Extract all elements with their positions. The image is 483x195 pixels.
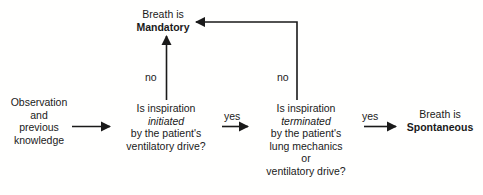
node-observation-line-4: knowledge <box>2 134 76 147</box>
edge-label-no-2: no <box>277 71 289 83</box>
node-decision2-line-2: terminated <box>250 115 362 128</box>
node-observation-line-2: and <box>2 109 76 122</box>
edge-label-yes-1: yes <box>224 110 240 122</box>
node-spontaneous-line-2: Spontaneous <box>400 121 480 134</box>
node-decision-inspiration-terminated: Is inspiration terminated by the patient… <box>250 102 362 178</box>
node-observation-line-3: previous <box>2 121 76 134</box>
node-observation-line-1: Observation <box>2 96 76 109</box>
node-decision1-line-4: ventilatory drive? <box>112 140 220 153</box>
flowchart-diagram: Observation and previous knowledge Is in… <box>0 0 483 195</box>
node-spontaneous-line-1: Breath is <box>400 108 480 121</box>
edge-label-no-1: no <box>145 71 157 83</box>
node-decision-inspiration-initiated: Is inspiration initiated by the patient'… <box>112 102 220 152</box>
node-decision2-line-3: by the patient's <box>250 127 362 140</box>
node-decision1-line-3: by the patient's <box>112 127 220 140</box>
node-decision2-line-5: or <box>250 152 362 165</box>
node-mandatory-line-2: Mandatory <box>126 21 200 34</box>
node-mandatory-line-1: Breath is <box>126 8 200 21</box>
node-decision2-line-6: ventilatory drive? <box>250 165 362 178</box>
node-breath-is-mandatory: Breath is Mandatory <box>126 8 200 33</box>
edge-label-yes-2: yes <box>362 110 378 122</box>
edge-decision2-no-to-mandatory <box>196 22 297 100</box>
node-decision2-line-4: lung mechanics <box>250 140 362 153</box>
node-decision1-line-2: initiated <box>112 115 220 128</box>
node-breath-is-spontaneous: Breath is Spontaneous <box>400 108 480 133</box>
node-decision2-line-1: Is inspiration <box>250 102 362 115</box>
node-decision1-line-1: Is inspiration <box>112 102 220 115</box>
node-observation: Observation and previous knowledge <box>2 96 76 146</box>
